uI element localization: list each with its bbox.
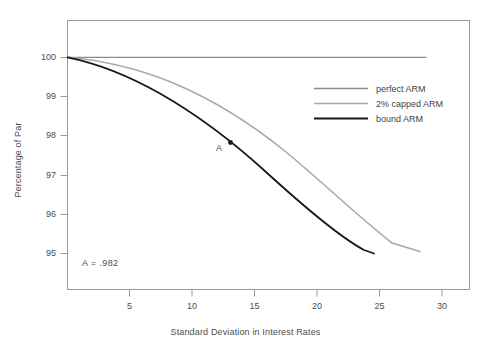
y-axis-tick-marks bbox=[61, 58, 68, 254]
series-line-bound-arm bbox=[68, 57, 375, 253]
y-tick-label-99: 99 bbox=[30, 91, 56, 101]
x-tick-label-5: 5 bbox=[118, 301, 142, 311]
x-tick-label-15: 15 bbox=[243, 301, 267, 311]
y-tick-label-97: 97 bbox=[30, 170, 56, 180]
point-a-label: A bbox=[216, 143, 222, 153]
chart-figure: 100 99 98 97 96 95 5 10 15 20 25 30 Stan… bbox=[0, 0, 491, 346]
x-tick-label-20: 20 bbox=[305, 301, 329, 311]
y-axis-title: Percentage of Par bbox=[13, 95, 23, 225]
x-axis-title: Standard Deviation in Interest Rates bbox=[0, 327, 491, 337]
y-tick-label-96: 96 bbox=[30, 209, 56, 219]
legend-label-bound-arm: bound ARM bbox=[376, 114, 423, 124]
point-a-marker bbox=[228, 140, 233, 145]
legend-label-perfect-arm: perfect ARM bbox=[376, 84, 426, 94]
legend-label-capped-arm: 2% capped ARM bbox=[376, 99, 443, 109]
x-tick-label-25: 25 bbox=[368, 301, 392, 311]
a-value-annotation: A = .982 bbox=[82, 258, 118, 268]
legend-swatches bbox=[314, 89, 368, 119]
y-tick-label-95: 95 bbox=[30, 248, 56, 258]
y-tick-label-100: 100 bbox=[30, 52, 56, 62]
plot-frame bbox=[68, 21, 470, 290]
x-axis-tick-marks bbox=[130, 290, 443, 297]
chart-plot-area bbox=[0, 0, 491, 346]
x-tick-label-30: 30 bbox=[430, 301, 454, 311]
series-line-capped-arm bbox=[68, 57, 421, 251]
y-tick-label-98: 98 bbox=[30, 130, 56, 140]
x-tick-label-10: 10 bbox=[180, 301, 204, 311]
